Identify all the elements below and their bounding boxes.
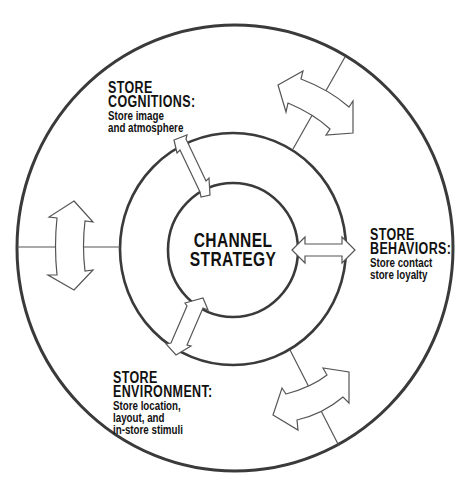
double-arrow-left-icon: [48, 201, 93, 290]
double-arrow-bottom-right-icon: [273, 368, 349, 430]
label-description-line: store loyalty: [370, 269, 451, 281]
label-store-cognitions: STORE COGNITIONS: Store image and atmosp…: [108, 81, 195, 134]
label-heading-line: ENVIRONMENT:: [113, 385, 213, 399]
double-arrow-top-right-icon: [278, 71, 353, 135]
double-arrow-inner-top-left-icon: [174, 135, 210, 197]
label-description-line: and atmosphere: [108, 122, 195, 134]
label-store-environment: STORE ENVIRONMENT: Store location, layou…: [113, 371, 213, 436]
double-arrow-inner-right-icon: [292, 237, 355, 263]
center-label: CHANNEL STRATEGY: [190, 230, 276, 268]
label-heading-line: BEHAVIORS:: [370, 242, 451, 256]
double-arrow-inner-bottom-left-icon: [166, 298, 208, 355]
label-heading-line: COGNITIONS:: [108, 95, 195, 109]
label-store-behaviors: STORE BEHAVIORS: Store contact store loy…: [370, 228, 451, 281]
label-description-line: in-store stimuli: [113, 424, 213, 436]
center-label-line-2: STRATEGY: [190, 249, 276, 268]
